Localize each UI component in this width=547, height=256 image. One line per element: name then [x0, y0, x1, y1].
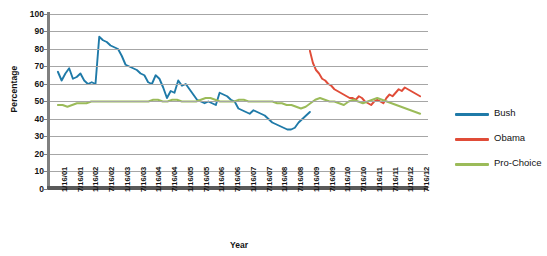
gridline [50, 119, 428, 120]
x-tick-label: 7/16/10 [360, 167, 368, 192]
y-tick-mark [44, 31, 48, 32]
y-tick-mark [44, 154, 48, 155]
y-tick-mark [44, 66, 48, 67]
y-tick-mark [44, 14, 48, 15]
legend-label: Obama [494, 132, 525, 143]
x-tick-label: 7/16/05 [203, 167, 211, 192]
y-tick-mark [44, 119, 48, 120]
gridline [50, 154, 428, 155]
chart-legend: BushObamaPro-Choice [455, 104, 545, 179]
gridline [50, 14, 428, 15]
x-tick-label: 7/16/06 [234, 167, 242, 192]
legend-item-pro-choice[interactable]: Pro-Choice [455, 154, 545, 179]
legend-item-obama[interactable]: Obama [455, 129, 545, 154]
x-tick-label: 7/16/11 [392, 167, 400, 192]
series-line-pro-choice [58, 98, 420, 114]
x-axis-title: Year [50, 240, 428, 250]
y-tick-mark [44, 189, 48, 190]
y-tick-label: 70 [22, 61, 44, 71]
legend-swatch-icon [455, 163, 489, 166]
series-line-obama [310, 50, 420, 104]
x-tick-label: 1/16/05 [187, 167, 195, 192]
x-tick-label: 7/16/04 [171, 167, 179, 192]
plot-area [50, 14, 428, 189]
y-tick-mark [44, 49, 48, 50]
legend-swatch-icon [455, 138, 489, 141]
line-chart: Percentage 0102030405060708090100 1/16/0… [0, 0, 547, 256]
legend-label: Pro-Choice [494, 157, 542, 168]
legend-swatch-icon [455, 113, 489, 116]
y-tick-label: 80 [22, 44, 44, 54]
x-tick-label: 1/16/09 [313, 167, 321, 192]
x-tick-label: 1/16/10 [344, 167, 352, 192]
gridline [50, 84, 428, 85]
x-tick-label: 7/16/03 [140, 167, 148, 192]
y-axis-tick-labels: 0102030405060708090100 [22, 8, 44, 189]
y-tick-mark [44, 101, 48, 102]
y-tick-label: 100 [22, 9, 44, 19]
y-tick-label: 90 [22, 26, 44, 36]
x-tick-label: 1/16/04 [155, 167, 163, 192]
x-tick-label: 1/16/06 [218, 167, 226, 192]
x-tick-label: 1/16/07 [250, 167, 258, 192]
x-tick-label: 7/16/09 [329, 167, 337, 192]
x-tick-label: 1/16/11 [376, 167, 384, 192]
gridline [50, 66, 428, 67]
x-tick-label: 1/16/01 [61, 167, 69, 192]
gridline [50, 136, 428, 137]
gridline [50, 101, 428, 102]
y-tick-label: 40 [22, 114, 44, 124]
x-tick-label: 1/16/02 [92, 167, 100, 192]
y-tick-label: 50 [22, 96, 44, 106]
x-tick-label: 1/16/08 [281, 167, 289, 192]
y-tick-mark [44, 84, 48, 85]
x-axis-tick-labels: 1/16/017/16/011/16/027/16/021/16/037/16/… [50, 191, 428, 237]
x-tick-label: 7/16/08 [297, 167, 305, 192]
gridline [50, 31, 428, 32]
y-tick-label: 20 [22, 149, 44, 159]
y-tick-label: 0 [22, 184, 44, 194]
x-tick-label: 7/16/07 [266, 167, 274, 192]
x-tick-label: 7/16/01 [77, 167, 85, 192]
y-tick-mark [44, 171, 48, 172]
x-tick-label: 1/16/12 [407, 167, 415, 192]
y-tick-label: 60 [22, 79, 44, 89]
y-tick-label: 30 [22, 131, 44, 141]
gridline [50, 49, 428, 50]
y-tick-label: 10 [22, 166, 44, 176]
x-tick-label: 7/16/12 [423, 167, 431, 192]
x-tick-label: 1/16/03 [124, 167, 132, 192]
y-axis-title: Percentage [9, 44, 19, 134]
x-tick-label: 7/16/02 [108, 167, 116, 192]
y-tick-mark [44, 136, 48, 137]
legend-item-bush[interactable]: Bush [455, 104, 545, 129]
legend-label: Bush [494, 107, 516, 118]
